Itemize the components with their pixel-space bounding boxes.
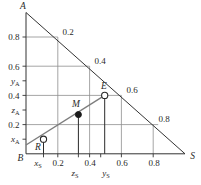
- point-R-marker[interactable]: [40, 136, 46, 142]
- grid-lines: [26, 37, 158, 154]
- vertex-label-A: A: [19, 1, 26, 11]
- vertex-label-B: B: [18, 153, 24, 163]
- point-E-marker[interactable]: [102, 92, 108, 98]
- bottom-axis-label-yS-sub: S: [106, 172, 110, 179]
- bottom-axis-label-zS-sub: S: [75, 172, 79, 179]
- left-axis-label-yA-sub: A: [15, 80, 20, 87]
- hyp-tick-label-0.4: 0.4: [94, 56, 106, 66]
- diagram-canvas: A B S R M E 0.8 0.6 0.4 0.2 yA zA xA 0.2…: [0, 0, 201, 185]
- bottom-tick-label-0.4: 0.4: [84, 158, 96, 168]
- tie-line-R-E: [26, 95, 105, 145]
- left-axis-label-zA: zA: [10, 105, 20, 116]
- bottom-axis-label-zS: zS: [70, 168, 79, 179]
- left-tick-label-0.6: 0.6: [8, 62, 20, 72]
- point-label-E: E: [100, 81, 107, 91]
- bottom-tick-label-0.6: 0.6: [116, 158, 128, 168]
- left-tick-label-0.2: 0.2: [8, 120, 19, 130]
- tie-line-group: [26, 95, 105, 145]
- left-tick-label-0.4: 0.4: [8, 91, 20, 101]
- bottom-axis-label-xS-sub: S: [38, 162, 42, 169]
- point-label-R: R: [34, 142, 41, 152]
- left-axis-label-xA: xA: [10, 134, 20, 145]
- left-axis-label-zA-sub: A: [15, 109, 20, 116]
- vertex-label-S: S: [190, 151, 195, 161]
- bottom-tick-label-0.2: 0.2: [52, 158, 63, 168]
- hyp-tick-label-0.8: 0.8: [158, 114, 170, 124]
- point-M-marker[interactable]: [75, 112, 81, 118]
- bottom-tick-label-0.8: 0.8: [148, 158, 160, 168]
- point-label-M: M: [71, 99, 81, 109]
- hyp-tick-label-0.2: 0.2: [62, 27, 73, 37]
- left-axis-label-yA: yA: [10, 76, 20, 87]
- bottom-axis-label-xS: xS: [33, 158, 42, 169]
- hyp-tick-label-0.6: 0.6: [126, 85, 138, 95]
- bottom-axis-label-yS: yS: [101, 168, 110, 179]
- ternary-diagram-figure: A B S R M E 0.8 0.6 0.4 0.2 yA zA xA 0.2…: [0, 0, 201, 185]
- left-axis-label-xA-sub: A: [15, 138, 20, 145]
- left-tick-label-0.8: 0.8: [8, 32, 20, 42]
